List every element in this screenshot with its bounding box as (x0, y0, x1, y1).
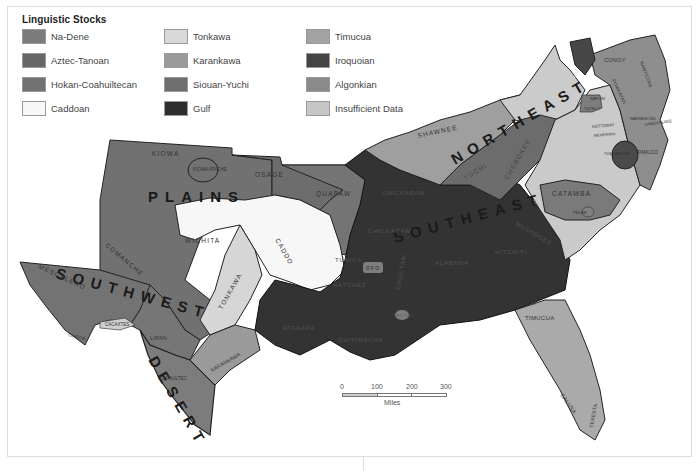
legend-label: Tonkawa (193, 31, 231, 42)
legend-label: Hokan-Coahuiltecan (51, 79, 137, 90)
legend-item-caddoan: Caddoan (22, 100, 90, 116)
label-natchez: NATCHEZ (333, 282, 367, 288)
swatch-caddoan (22, 101, 46, 116)
legend-label: Iroquoian (335, 55, 375, 66)
scale-segment (412, 394, 446, 396)
scale-unit: Miles (384, 399, 400, 406)
legend: Linguistic Stocks Na-Dene Aztec-Tanoan H… (22, 14, 462, 25)
label-kiowa-apache: KIOWA APACHE (193, 167, 227, 172)
legend-item-hokan-coahuiltecan: Hokan-Coahuiltecan (22, 76, 137, 92)
label-kiowa: KIOWA (152, 150, 179, 157)
scale-tick-0: 0 (340, 383, 344, 390)
label-chickasaw-north: CHICKASAW (382, 190, 425, 196)
label-ofo: OFO (366, 265, 380, 271)
legend-item-karankawa: Karankawa (164, 52, 241, 68)
swatch-insufficient-data (306, 101, 330, 116)
label-osage: OSAGE (255, 171, 284, 178)
label-chitimacha: CHITIMACHA (338, 337, 383, 343)
label-atakapa: ATAKAPA (283, 325, 315, 331)
swatch-iroquoian (306, 53, 330, 68)
swatch-na-dene (22, 29, 46, 44)
label-saponi: SAPONI (590, 96, 605, 101)
swatch-gulf (164, 101, 188, 116)
label-wichita: WICHITA (185, 237, 220, 244)
label-alabama: ALABAMA (435, 260, 469, 266)
label-lipan: LIPAN (150, 335, 167, 341)
label-hitchiti: HITCHITI (495, 249, 527, 255)
legend-label: Siouan-Yuchi (193, 79, 249, 90)
legend-label: Aztec-Tanoan (51, 55, 109, 66)
label-biloxi: BILOXI (396, 313, 414, 318)
swatch-karankawa (164, 53, 188, 68)
label-cacaxtes: CACAXTES (105, 322, 129, 327)
swatch-hokan-coahuiltecan (22, 77, 46, 92)
legend-label: Karankawa (193, 55, 241, 66)
legend-item-siouan-yuchi: Siouan-Yuchi (164, 76, 249, 92)
legend-item-aztec-tanoan: Aztec-Tanoan (22, 52, 109, 68)
swatch-timucua (306, 29, 330, 44)
swatch-siouan-yuchi (164, 77, 188, 92)
label-tuscarora: TUSCARORA (604, 151, 629, 156)
legend-label: Timucua (335, 31, 371, 42)
label-tunica: TUNICA (335, 257, 362, 263)
legend-label: Gulf (193, 103, 210, 114)
page-tick (363, 457, 364, 471)
legend-item-gulf: Gulf (164, 100, 210, 116)
legend-item-timucua: Timucua (306, 28, 371, 44)
scale-segment (343, 394, 378, 396)
label-pamlico: PAMLICO (638, 150, 658, 155)
scale-segment (378, 394, 413, 396)
label-chickasaw: CHICKASAW (368, 228, 411, 234)
swatch-algonkian (306, 77, 330, 92)
label-timucua: TIMUCUA (525, 315, 554, 321)
legend-item-insufficient-data: Insufficient Data (306, 100, 403, 116)
legend-label: Insufficient Data (335, 103, 403, 114)
swatch-tonkawa (164, 29, 188, 44)
region-erie (570, 38, 595, 75)
legend-item-na-dene: Na-Dene (22, 28, 89, 44)
label-coahuiltec: COAHUILTEC (158, 376, 187, 381)
scale-tick-100: 100 (371, 383, 383, 390)
label-plains: PLAINS (148, 188, 245, 205)
legend-label: Na-Dene (51, 31, 89, 42)
scale-bar: 0 100 200 300 Miles (340, 383, 460, 413)
legend-item-iroquoian: Iroquoian (306, 52, 375, 68)
label-pedee: PEDEE (573, 210, 587, 215)
label-quapaw: QUAPAW (316, 190, 351, 198)
scale-segments (342, 393, 447, 397)
legend-item-tonkawa: Tonkawa (164, 28, 231, 44)
label-conoy: CONOY (604, 57, 626, 63)
legend-title: Linguistic Stocks (22, 14, 462, 25)
label-tutelo: TUTELO (584, 106, 600, 111)
legend-label: Algonkian (335, 79, 377, 90)
label-catawba: CATAWBA (552, 190, 591, 197)
scale-tick-300: 300 (440, 383, 452, 390)
swatch-aztec-tanoan (22, 53, 46, 68)
scale-tick-200: 200 (406, 383, 418, 390)
legend-label: Caddoan (51, 103, 90, 114)
legend-item-algonkian: Algonkian (306, 76, 377, 92)
